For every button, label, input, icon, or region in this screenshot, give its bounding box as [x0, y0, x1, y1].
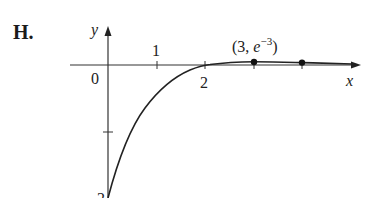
- inflection-point: [299, 59, 305, 65]
- x-axis-label: x: [345, 72, 353, 89]
- function-graph: y x 0 1 2 −2 (3, e−3): [0, 0, 368, 198]
- tick-label-1: 1: [152, 42, 160, 59]
- origin-label: 0: [91, 70, 99, 87]
- function-curve: [108, 62, 352, 198]
- tick-label-neg2: −2: [88, 190, 105, 198]
- tick-label-2: 2: [200, 74, 208, 91]
- max-point: [251, 59, 257, 65]
- point-annotation: (3, e−3): [232, 35, 277, 56]
- y-axis-arrow-icon: [105, 26, 112, 36]
- x-axis-arrow-icon: [351, 62, 361, 69]
- y-axis-label: y: [89, 21, 99, 39]
